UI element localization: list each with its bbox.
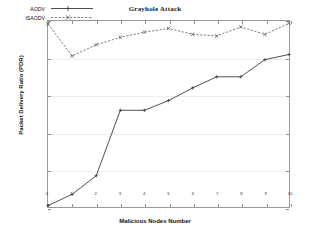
x-tick-label: 10 bbox=[288, 191, 293, 196]
data-point bbox=[215, 75, 218, 78]
x-tick-mark bbox=[291, 21, 292, 24]
data-point bbox=[263, 33, 266, 36]
data-point bbox=[70, 54, 73, 57]
series-markers-aodv bbox=[46, 53, 290, 207]
x-tick-label: 4 bbox=[143, 191, 145, 196]
data-point bbox=[287, 53, 290, 56]
legend-label-aodv: AODV bbox=[5, 6, 49, 12]
legend-swatch-aodv bbox=[49, 4, 95, 13]
x-tick-label: 5 bbox=[167, 191, 169, 196]
legend-item-aodv: AODV bbox=[5, 4, 99, 13]
x-tick-label: 3 bbox=[119, 191, 121, 196]
x-tick-label: 6 bbox=[192, 191, 194, 196]
chart-figure: Grayhole Attack Packet Delivery Ratio (P… bbox=[0, 0, 310, 238]
data-point bbox=[167, 99, 170, 102]
data-point bbox=[95, 43, 98, 46]
legend-item-isaodv: ISAODV bbox=[5, 13, 99, 22]
y-tick-mark bbox=[48, 209, 51, 210]
plot-area bbox=[47, 20, 290, 208]
series-layer bbox=[48, 21, 289, 207]
data-point bbox=[46, 22, 49, 25]
x-tick-label: 9 bbox=[265, 191, 267, 196]
x-tick-label: 0 bbox=[46, 191, 48, 196]
x-axis-label: Malicious Nodes Number bbox=[0, 218, 310, 224]
data-point bbox=[143, 109, 146, 112]
series-line-aodv bbox=[48, 54, 289, 205]
chart-legend: AODV ISAODV bbox=[5, 4, 99, 22]
legend-swatch-isaodv bbox=[49, 13, 95, 22]
y-tick-mark bbox=[286, 209, 289, 210]
x-tick-label: 2 bbox=[94, 191, 96, 196]
x-tick-label: 8 bbox=[240, 191, 242, 196]
x-tick-label: 1 bbox=[70, 191, 72, 196]
legend-label-isaodv: ISAODV bbox=[5, 15, 49, 21]
y-axis-label: Packet Delivery Ratio (PDR) bbox=[18, 20, 24, 170]
data-point bbox=[119, 109, 122, 112]
x-tick-mark bbox=[291, 204, 292, 207]
data-point bbox=[46, 204, 49, 207]
x-tick-label: 7 bbox=[216, 191, 218, 196]
data-point bbox=[191, 86, 194, 89]
series-markers-isaodv bbox=[46, 22, 290, 58]
